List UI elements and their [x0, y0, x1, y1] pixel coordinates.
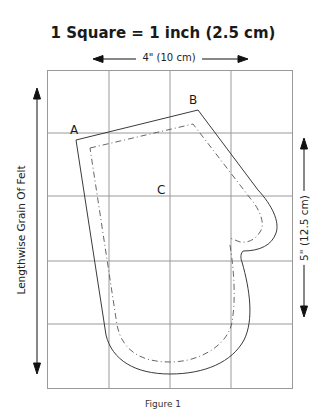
width-dimension-label: 4" (10 cm) [139, 52, 199, 63]
grid [47, 70, 293, 389]
grain-label: Lengthwise Grain Of Felt [15, 161, 27, 298]
grain-arrow [34, 88, 41, 374]
point-b-label: B [189, 93, 197, 107]
figure-caption: Figure 1 [0, 399, 326, 409]
point-a-label: A [70, 123, 78, 137]
height-dimension-label: 5" (12.5 cm) [298, 191, 310, 265]
stitch-line [90, 124, 262, 242]
stitch-line-lower [90, 148, 234, 362]
point-c-label: C [157, 183, 165, 197]
cut-line-outline [76, 110, 277, 374]
